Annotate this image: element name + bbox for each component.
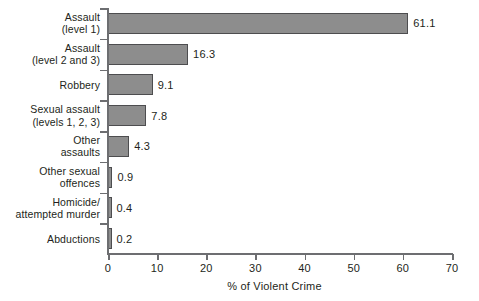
category-label-line1: Assault	[0, 11, 100, 23]
x-axis-tick-label: 50	[334, 262, 374, 274]
y-axis-tick	[100, 39, 107, 41]
category-label: Otherassaults	[0, 134, 100, 158]
x-axis-tick	[452, 254, 454, 260]
y-axis-tick	[100, 100, 107, 102]
bar	[108, 105, 146, 126]
bar-value-label: 0.9	[117, 171, 133, 183]
x-axis-tick	[305, 254, 307, 260]
bar-row: Assault(level 1)61.1	[0, 8, 479, 39]
bar-rows: Assault(level 1)61.1Assault(level 2 and …	[0, 0, 479, 246]
x-axis-tick	[255, 254, 257, 260]
category-label-line2: (levels 1, 2, 3)	[0, 116, 100, 128]
bar-row: Abductions0.2	[0, 223, 479, 254]
category-label-line2: assaults	[0, 146, 100, 158]
category-label: Sexual assault(levels 1, 2, 3)	[0, 103, 100, 127]
category-label-line1: Assault	[0, 42, 100, 54]
bar-value-label: 0.4	[117, 202, 133, 214]
x-axis-tick-label: 30	[235, 262, 275, 274]
x-axis-tick	[157, 254, 159, 260]
category-label-line2: offences	[0, 177, 100, 189]
bar-value-label: 7.8	[151, 110, 167, 122]
y-axis-tick	[100, 193, 107, 195]
x-axis-tick-label: 10	[137, 262, 177, 274]
bar	[108, 228, 112, 249]
bar-value-label: 0.2	[117, 233, 133, 245]
bar-value-label: 9.1	[158, 79, 174, 91]
x-axis-tick-label: 60	[383, 262, 423, 274]
bar-row: Sexual assault(levels 1, 2, 3)7.8	[0, 100, 479, 131]
bar	[108, 74, 153, 95]
bar-fill	[108, 228, 112, 249]
category-label-line1: Other	[0, 134, 100, 146]
x-axis-title-text: % of Violent Crime	[157, 280, 322, 292]
bar-fill	[108, 74, 153, 95]
category-label-line1: Abductions	[0, 233, 100, 245]
bar-fill	[108, 197, 112, 218]
bar-value-label: 61.1	[413, 17, 435, 29]
y-axis-tick	[100, 70, 107, 72]
category-label: Assault(level 2 and 3)	[0, 42, 100, 66]
x-axis-tick-label: 20	[186, 262, 226, 274]
category-label-line2: (level 1)	[0, 23, 100, 35]
category-label: Assault(level 1)	[0, 11, 100, 35]
category-label-line1: Homicide/	[0, 196, 100, 208]
category-label: Robbery	[0, 79, 100, 91]
bar	[108, 197, 112, 218]
y-axis-tick	[100, 131, 107, 133]
category-label: Other sexualoffences	[0, 165, 100, 189]
bar-value-label: 4.3	[134, 140, 150, 152]
bar-fill	[108, 167, 112, 188]
y-axis-line	[107, 8, 109, 254]
bar-fill	[108, 44, 188, 65]
category-label-line1: Robbery	[0, 79, 100, 91]
category-label: Homicide/attempted murder	[0, 196, 100, 220]
bar	[108, 44, 188, 65]
y-axis-tick	[100, 223, 107, 225]
bar-fill	[108, 105, 146, 126]
y-axis-tick	[100, 8, 107, 10]
bar-row: Robbery9.1	[0, 70, 479, 101]
category-label-line1: Sexual assault	[0, 103, 100, 115]
bar	[108, 136, 129, 157]
bar-row: Assault(level 2 and 3)16.3	[0, 39, 479, 70]
x-axis-line	[107, 253, 453, 255]
y-axis-tick	[100, 162, 107, 164]
category-label-line2: (level 2 and 3)	[0, 54, 100, 66]
bar	[108, 167, 112, 188]
bar-fill	[108, 13, 408, 34]
bar-fill	[108, 136, 129, 157]
category-label: Abductions	[0, 233, 100, 245]
category-label-line1: Other sexual	[0, 165, 100, 177]
bar-chart: Assault(level 1)61.1Assault(level 2 and …	[0, 0, 479, 301]
x-axis-tick	[403, 254, 405, 260]
x-axis-tick	[108, 254, 110, 260]
bar	[108, 13, 408, 34]
x-axis-tick-label: 0	[88, 262, 128, 274]
bar-row: Homicide/attempted murder0.4	[0, 193, 479, 224]
x-axis-tick-label: 40	[285, 262, 325, 274]
x-axis-tick-label: 70	[432, 262, 472, 274]
x-axis-tick	[354, 254, 356, 260]
bar-value-label: 16.3	[193, 48, 215, 60]
category-label-line2: attempted murder	[0, 208, 100, 220]
x-axis-tick	[206, 254, 208, 260]
bar-row: Otherassaults4.3	[0, 131, 479, 162]
x-axis-title: % of Violent Crime	[0, 280, 479, 292]
bar-row: Other sexualoffences0.9	[0, 162, 479, 193]
